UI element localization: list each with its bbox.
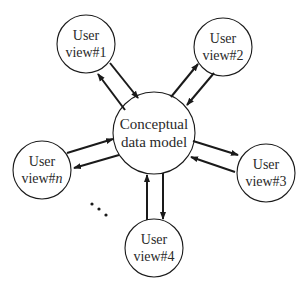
view2-line2: view#2 bbox=[193, 47, 253, 64]
viewn-line1: User bbox=[12, 153, 72, 170]
center-line2: data model bbox=[109, 133, 199, 151]
view4-node-label: User view#4 bbox=[124, 231, 184, 265]
center-node-label: Conceptual data model bbox=[109, 115, 199, 151]
viewn-prefix: view# bbox=[21, 171, 55, 186]
view4-line1: User bbox=[124, 231, 184, 248]
view3-line1: User bbox=[236, 156, 296, 173]
ellipsis-dot bbox=[104, 213, 107, 216]
arrow-view1-to-center bbox=[110, 63, 138, 98]
view3-line2: view#3 bbox=[236, 173, 296, 190]
viewn-line2: view#n bbox=[12, 170, 72, 187]
arrow-view3-to-center bbox=[191, 157, 235, 172]
center-line1: Conceptual bbox=[109, 115, 199, 133]
view1-line1: User bbox=[56, 27, 116, 44]
view4-line2: view#4 bbox=[124, 248, 184, 265]
view1-line2: view#1 bbox=[56, 44, 116, 61]
arrow-center-to-view1 bbox=[98, 74, 125, 110]
arrow-center-to-view2 bbox=[171, 64, 198, 97]
view2-line1: User bbox=[193, 30, 253, 47]
viewn-suffix: n bbox=[56, 171, 63, 186]
view2-node-label: User view#2 bbox=[193, 30, 253, 64]
viewn-node-label: User view#n bbox=[12, 153, 72, 187]
arrow-viewn-to-center bbox=[67, 139, 113, 153]
ellipsis-dot bbox=[97, 207, 100, 210]
arrow-center-to-viewn bbox=[74, 155, 119, 168]
ellipsis-dot bbox=[90, 202, 93, 205]
arrow-center-to-view3 bbox=[193, 141, 238, 155]
arrow-view2-to-center bbox=[187, 73, 214, 105]
view3-node-label: User view#3 bbox=[236, 156, 296, 190]
view1-node-label: User view#1 bbox=[56, 27, 116, 61]
